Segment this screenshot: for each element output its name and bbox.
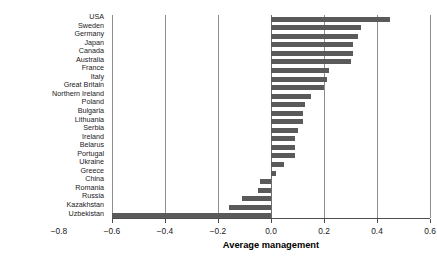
category-label: USA [89,13,104,21]
bar [271,94,311,99]
x-tick [430,219,431,223]
category-label: Belarus [80,141,104,149]
bar [271,136,295,141]
x-tick-label: 0.6 [410,226,437,236]
bar [271,171,276,176]
x-tick [112,219,113,223]
gridline [430,15,431,218]
bar [271,153,295,158]
x-tick [324,219,325,223]
bar [258,188,271,193]
bar [271,145,295,150]
bar [242,196,271,201]
bar [229,205,271,210]
x-axis-title: Average management [112,240,430,251]
x-tick-label: −0.4 [145,226,185,236]
category-label: Uzbekistan [68,210,104,218]
bar [271,85,324,90]
category-label: Kazakhstan [66,201,104,209]
bar [271,68,329,73]
x-tick [271,219,272,223]
gridline [112,15,113,218]
x-tick-label: −0.6 [92,226,132,236]
bar [260,179,271,184]
category-label: Germany [74,30,104,38]
bar [271,162,284,167]
gridline [165,15,166,218]
x-tick-label: −0.2 [198,226,238,236]
x-tick [165,219,166,223]
bar-chart-figure: USASwedenGermanyJapanCanadaAustraliaFran… [0,0,437,267]
bar [271,102,305,107]
x-tick [377,219,378,223]
bar [271,51,353,56]
gridline [377,15,378,218]
bar [271,25,361,30]
category-label: Bulgaria [78,107,104,115]
bar [271,111,303,116]
category-axis-labels: USASwedenGermanyJapanCanadaAustraliaFran… [0,13,107,218]
bar [271,17,390,22]
bar [271,119,303,124]
bar [271,59,351,64]
bar [271,42,353,47]
category-label: Serbia [83,124,104,132]
bar [271,34,358,39]
x-tick-label: 0.2 [304,226,344,236]
bar [271,77,327,82]
bar [271,128,298,133]
gridline [218,15,219,218]
x-tick-label: −0.8 [39,226,79,236]
x-tick [218,219,219,223]
x-tick-label: 0.4 [357,226,397,236]
x-tick-label: 0.0 [251,226,291,236]
plot-area [112,15,430,218]
